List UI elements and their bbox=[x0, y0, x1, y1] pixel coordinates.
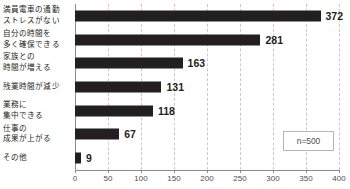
category-label: 家族との時間が増える bbox=[0, 51, 71, 75]
category-label-line: 自分の時間を bbox=[3, 29, 52, 40]
category-axis-labels: 満員電車の通勤ストレスがない自分の時間を多く確保できる家族との時間が増える残業時… bbox=[0, 4, 71, 170]
x-tick-label: 250 bbox=[233, 175, 246, 183]
x-tick-mark bbox=[141, 170, 142, 173]
category-label-line: 業務に bbox=[3, 100, 27, 111]
bar-chart: 満員電車の通勤ストレスがない自分の時間を多く確保できる家族との時間が増える残業時… bbox=[0, 0, 350, 189]
x-tick-label: 300 bbox=[266, 175, 279, 183]
x-tick-mark bbox=[240, 170, 241, 173]
category-label-line: ストレスがない bbox=[3, 16, 60, 27]
category-label-line: 集中できる bbox=[3, 111, 44, 122]
bar-value-label: 118 bbox=[158, 105, 175, 116]
category-label: その他 bbox=[0, 146, 71, 170]
bar-value-label: 131 bbox=[166, 82, 184, 93]
category-label-line: 仕事の bbox=[3, 124, 27, 135]
bar bbox=[75, 10, 321, 21]
category-label: 満員電車の通勤ストレスがない bbox=[0, 4, 71, 28]
bar bbox=[75, 81, 161, 92]
x-tick-mark bbox=[75, 170, 76, 173]
category-label: 残業時間が減少 bbox=[0, 75, 71, 99]
bar-value-label: 67 bbox=[124, 129, 136, 140]
category-label-line: 時間が増える bbox=[3, 63, 52, 74]
category-label-line: 成果が上がる bbox=[3, 134, 52, 145]
category-label-line: 残業時間が減少 bbox=[3, 82, 60, 93]
bar-row: 131 bbox=[75, 75, 339, 99]
x-tick-label: 200 bbox=[200, 175, 213, 183]
x-tick-mark bbox=[108, 170, 109, 173]
bar-row: 163 bbox=[75, 51, 339, 75]
bar-row: 118 bbox=[75, 99, 339, 123]
bar-row: 372 bbox=[75, 4, 339, 28]
x-tick-mark bbox=[306, 170, 307, 173]
bar-value-label: 163 bbox=[188, 58, 206, 69]
category-label-line: その他 bbox=[3, 153, 27, 164]
x-tick-label: 400 bbox=[332, 175, 345, 183]
bar-value-label: 281 bbox=[265, 34, 283, 45]
bar bbox=[75, 129, 119, 140]
category-label-line: 満員電車の通勤 bbox=[3, 5, 60, 16]
x-tick-label: 100 bbox=[134, 175, 147, 183]
bar bbox=[75, 58, 183, 69]
gridline-400 bbox=[339, 4, 340, 170]
bar-value-label: 9 bbox=[86, 153, 92, 164]
bar bbox=[75, 153, 81, 164]
category-label: 自分の時間を多く確保できる bbox=[0, 28, 71, 52]
x-tick-mark bbox=[174, 170, 175, 173]
bar bbox=[75, 34, 260, 45]
category-label-line: 多く確保できる bbox=[3, 40, 60, 51]
category-label: 業務に集中できる bbox=[0, 99, 71, 123]
bar bbox=[75, 105, 153, 116]
bar-row: 281 bbox=[75, 28, 339, 52]
x-tick-mark bbox=[339, 170, 340, 173]
bar-value-label: 372 bbox=[326, 11, 344, 22]
x-tick-label: 50 bbox=[104, 175, 113, 183]
x-tick-label: 350 bbox=[299, 175, 312, 183]
x-tick-label: 0 bbox=[73, 175, 77, 183]
x-tick-label: 150 bbox=[167, 175, 180, 183]
category-label-line: 家族との bbox=[3, 52, 35, 63]
x-tick-mark bbox=[207, 170, 208, 173]
sample-size-annotation: n=500 bbox=[283, 131, 334, 151]
category-label: 仕事の成果が上がる bbox=[0, 123, 71, 147]
sample-size-label: n=500 bbox=[297, 136, 321, 146]
x-tick-mark bbox=[273, 170, 274, 173]
